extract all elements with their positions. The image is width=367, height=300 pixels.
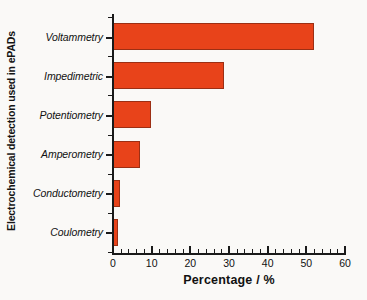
y-tick-minor (108, 17, 113, 18)
x-tick-major (267, 246, 269, 255)
y-tick-label: Amperometry (41, 147, 103, 161)
y-tick-major (106, 154, 113, 156)
y-tick-major (106, 76, 113, 78)
bar-impedimetric (113, 62, 224, 89)
x-tick-minor (291, 249, 292, 255)
x-tick-minor (237, 249, 238, 255)
y-tick-minor (108, 174, 113, 175)
x-tick-minor (128, 249, 129, 255)
y-tick-minor (108, 95, 113, 96)
x-tick-minor (244, 249, 245, 255)
bar-row (113, 219, 345, 246)
x-tick-minor (283, 249, 284, 255)
bar-row (113, 62, 345, 89)
x-tick-major (344, 246, 346, 255)
y-tick-label: Conductometry (33, 186, 103, 200)
x-tick-minor (299, 249, 300, 255)
x-tick-label: 30 (223, 257, 235, 269)
bar-amperometry (113, 141, 140, 168)
y-tick-label: Impedimetric (44, 69, 103, 83)
x-tick-label: 10 (146, 257, 158, 269)
x-tick-label: 50 (300, 257, 312, 269)
x-tick-label: 20 (184, 257, 196, 269)
y-tick-major (106, 115, 113, 117)
x-tick-minor (260, 249, 261, 255)
x-tick-minor (144, 249, 145, 255)
x-tick-minor (175, 249, 176, 255)
x-tick-minor (159, 249, 160, 255)
bar-row (113, 101, 345, 128)
y-tick-label: Voltammetry (46, 30, 103, 44)
y-tick-minor (108, 213, 113, 214)
x-tick-minor (214, 249, 215, 255)
bar-chart: Electrochemical detection used in ePADs … (0, 0, 367, 300)
x-tick-minor (136, 249, 137, 255)
y-tick-minor (108, 135, 113, 136)
y-tick-minor (108, 56, 113, 57)
bar-potentiometry (113, 101, 151, 128)
x-tick-label: 0 (110, 257, 116, 269)
y-axis-title: Electrochemical detection used in ePADs (0, 0, 22, 262)
x-tick-major (189, 246, 191, 255)
x-tick-major (112, 246, 114, 255)
x-tick-minor (275, 249, 276, 255)
y-tick-major (106, 37, 113, 39)
x-tick-minor (121, 249, 122, 255)
x-tick-minor (198, 249, 199, 255)
x-tick-minor (337, 249, 338, 255)
bar-row (113, 180, 345, 207)
x-tick-minor (206, 249, 207, 255)
y-tick-major (106, 193, 113, 195)
x-tick-minor (183, 249, 184, 255)
bar-voltammetry (113, 23, 314, 50)
y-tick-major (106, 232, 113, 234)
y-tick-label: Coulometry (50, 225, 103, 239)
y-axis-tick-labels: VoltammetryImpedimetricPotentiometryAmpe… (20, 17, 109, 252)
x-tick-minor (252, 249, 253, 255)
x-tick-major (305, 246, 307, 255)
y-tick-label: Potentiometry (40, 108, 103, 122)
x-tick-minor (330, 249, 331, 255)
plot-area (113, 17, 345, 252)
x-tick-minor (322, 249, 323, 255)
bar-row (113, 23, 345, 50)
bar-row (113, 141, 345, 168)
x-tick-label: 40 (262, 257, 274, 269)
x-tick-major (151, 246, 153, 255)
y-axis-title-text: Electrochemical detection used in ePADs (5, 31, 17, 231)
x-tick-minor (221, 249, 222, 255)
x-tick-major (228, 246, 230, 255)
x-tick-minor (167, 249, 168, 255)
x-axis-title: Percentage / % (113, 273, 345, 287)
x-tick-label: 60 (339, 257, 351, 269)
x-tick-minor (314, 249, 315, 255)
